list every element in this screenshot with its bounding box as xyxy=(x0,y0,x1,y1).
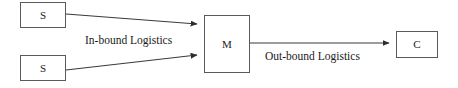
node-supplier-1: S xyxy=(20,2,66,28)
node-customer: C xyxy=(396,31,438,58)
node-supplier-1-label: S xyxy=(40,10,46,21)
node-supplier-2: S xyxy=(20,55,66,81)
edge-supplier-2-to-manufacturer xyxy=(66,55,197,70)
logistics-diagram: S S M C In-bound Logistics Out-bound Log… xyxy=(0,0,458,88)
node-manufacturer: M xyxy=(204,15,250,73)
edge-label-inbound: In-bound Logistics xyxy=(85,35,172,47)
edge-supplier-1-to-manufacturer xyxy=(66,14,197,24)
node-supplier-2-label: S xyxy=(40,63,46,74)
node-customer-label: C xyxy=(413,39,420,50)
edge-label-outbound: Out-bound Logistics xyxy=(265,51,360,63)
node-manufacturer-label: M xyxy=(222,39,232,50)
